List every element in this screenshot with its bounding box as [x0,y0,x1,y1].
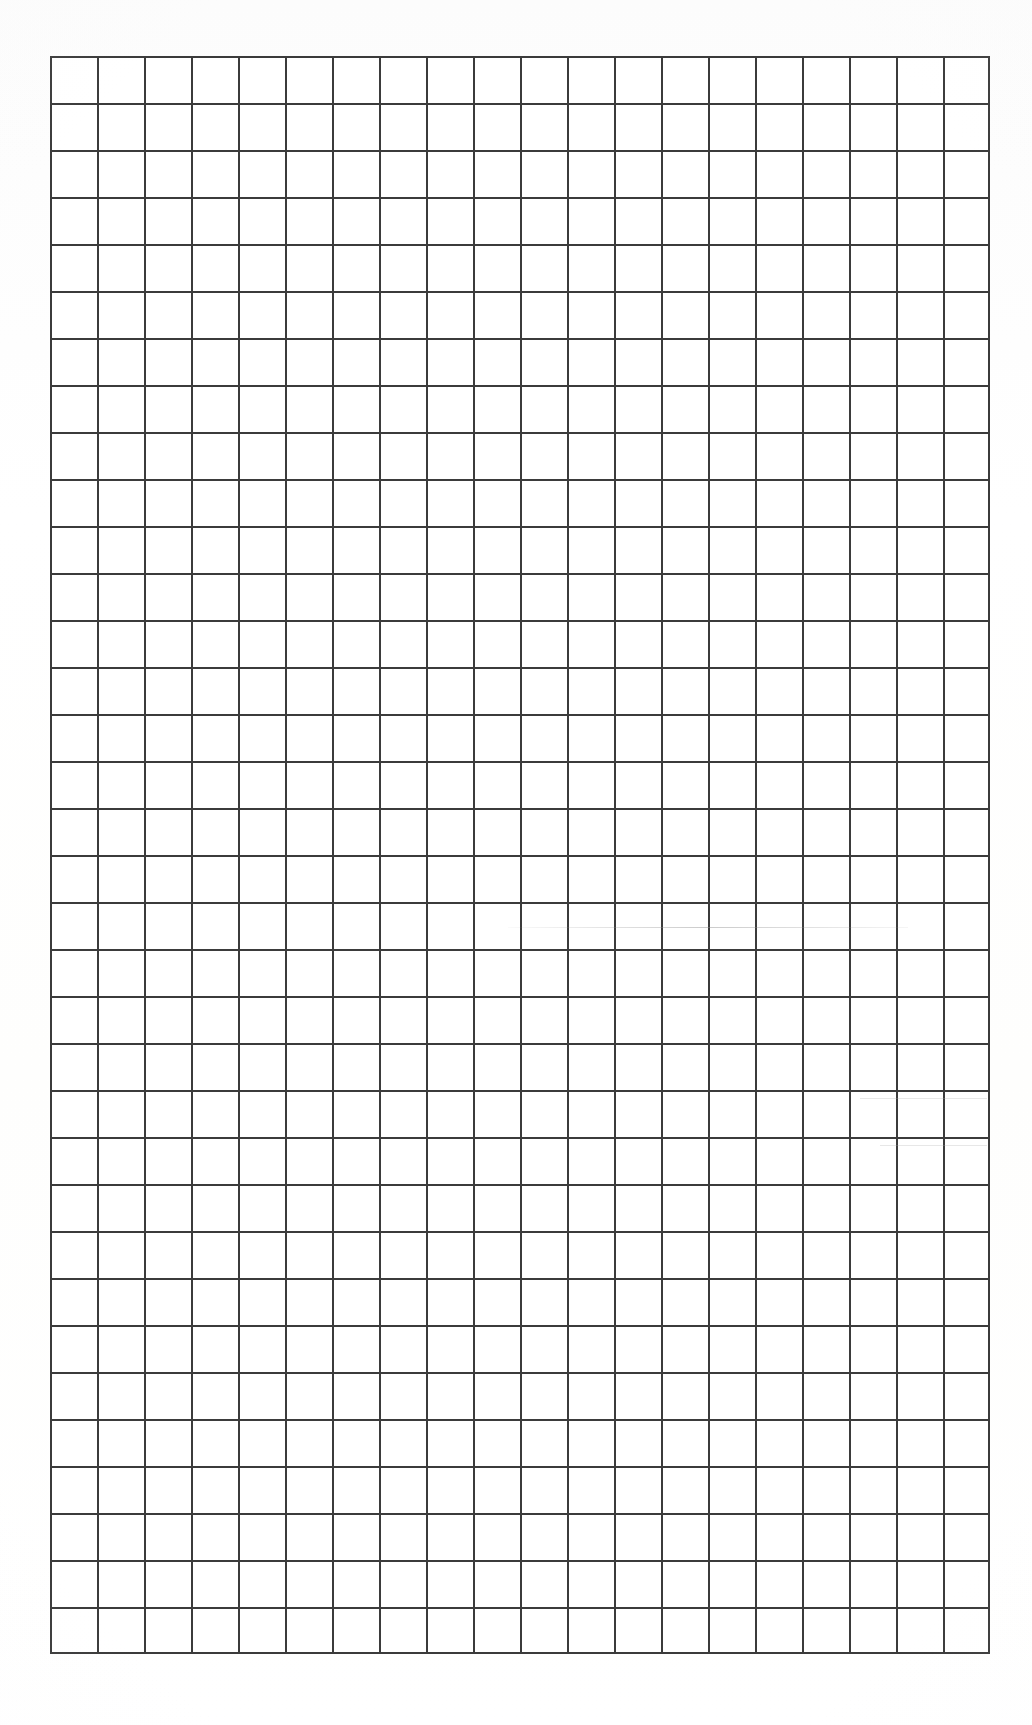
ruled-grid [50,56,990,1654]
grid-ruling-lines [50,56,990,1654]
page-canvas [0,0,1032,1725]
grid-right-border [988,56,990,1654]
grid-bottom-border [50,1652,990,1654]
